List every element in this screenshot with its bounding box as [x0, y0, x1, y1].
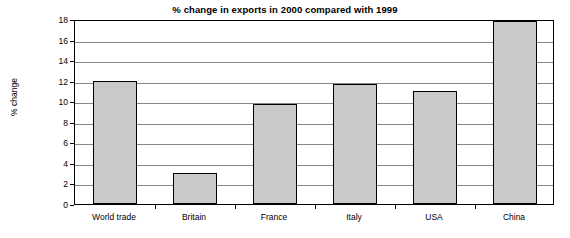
bars-layer: [75, 21, 553, 204]
bar: [93, 81, 137, 204]
bar: [173, 173, 217, 204]
y-axis-tick-label: 18: [28, 15, 68, 25]
x-axis-separator-tick: [315, 204, 316, 209]
chart-container: % change in exports in 2000 compared wit…: [0, 0, 570, 238]
x-axis-separator-tick: [475, 204, 476, 209]
y-axis-label: % change: [9, 78, 19, 116]
x-axis-category-label: Italy: [346, 212, 362, 222]
y-axis-tick-label: 10: [28, 97, 68, 107]
x-axis-category-label: France: [261, 212, 287, 222]
bar: [493, 21, 537, 204]
y-axis-tick-mark: [70, 20, 74, 21]
x-axis-category-label: China: [503, 212, 525, 222]
chart-title: % change in exports in 2000 compared wit…: [0, 4, 570, 15]
y-axis-tick-mark: [70, 82, 74, 83]
y-axis-tick-label: 16: [28, 36, 68, 46]
plot-area: [74, 20, 554, 205]
y-axis-tick-mark: [70, 123, 74, 124]
y-axis-tick-mark: [70, 41, 74, 42]
y-axis-tick-mark: [70, 143, 74, 144]
y-axis-tick-mark: [70, 102, 74, 103]
x-axis-separator-tick: [155, 204, 156, 209]
x-axis-category-label: USA: [425, 212, 442, 222]
y-axis-tick-label: 8: [28, 118, 68, 128]
y-axis-tick-label: 12: [28, 77, 68, 87]
x-axis-separator-tick: [235, 204, 236, 209]
y-axis-tick-label: 14: [28, 56, 68, 66]
y-axis-tick-mark: [70, 205, 74, 206]
bar: [413, 91, 457, 204]
y-axis-tick-mark: [70, 61, 74, 62]
x-axis-separator-tick: [395, 204, 396, 209]
y-axis-tick-mark: [70, 184, 74, 185]
y-axis-tick-label: 0: [28, 200, 68, 210]
y-axis-tick-mark: [70, 164, 74, 165]
x-axis-category-label: Britain: [182, 212, 206, 222]
y-axis-tick-label: 6: [28, 138, 68, 148]
bar: [253, 104, 297, 204]
x-axis-category-label: World trade: [92, 212, 136, 222]
bar: [333, 84, 377, 204]
y-axis-tick-label: 4: [28, 159, 68, 169]
y-axis-tick-label: 2: [28, 179, 68, 189]
